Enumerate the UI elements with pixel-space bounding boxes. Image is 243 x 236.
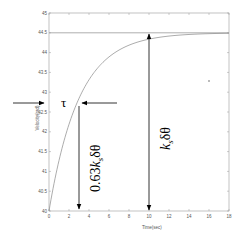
x-axis-label: Time(sec) bbox=[142, 225, 162, 230]
y-axis-label: Velocity(rad) bbox=[35, 105, 40, 131]
x-tick-label: 10 bbox=[146, 214, 152, 219]
y-tick-label: 45 bbox=[42, 11, 48, 16]
plot-frame bbox=[49, 13, 229, 211]
y-tick-label: 43 bbox=[42, 90, 48, 95]
x-axis-ticks: 024681012141618 bbox=[48, 13, 232, 219]
x-tick-label: 4 bbox=[88, 214, 91, 219]
x-tick-label: 6 bbox=[108, 214, 111, 219]
x-tick-label: 8 bbox=[128, 214, 131, 219]
y-tick-label: 40.5 bbox=[38, 189, 47, 194]
x-tick-label: 0 bbox=[48, 214, 51, 219]
x-tick-label: 12 bbox=[166, 214, 172, 219]
x-tick-label: 2 bbox=[68, 214, 71, 219]
stray-mark bbox=[208, 80, 209, 81]
y-tick-label: 44.5 bbox=[38, 30, 47, 35]
tau-label: τ bbox=[61, 95, 66, 110]
y-tick-label: 43.5 bbox=[38, 70, 47, 75]
y-axis-ticks: 4040.54141.54242.54343.54444.545 bbox=[38, 11, 229, 214]
y-tick-label: 42 bbox=[42, 129, 48, 134]
ks-label: ksδθ bbox=[158, 127, 175, 150]
y-tick-label: 44 bbox=[42, 50, 48, 55]
x-tick-label: 16 bbox=[206, 214, 212, 219]
y-tick-label: 40 bbox=[42, 209, 48, 214]
x-tick-label: 18 bbox=[226, 214, 232, 219]
step-response-chart: 4040.54141.54242.54343.54444.545 0246810… bbox=[0, 0, 243, 236]
x-tick-label: 14 bbox=[186, 214, 192, 219]
response-curve bbox=[49, 33, 229, 211]
y-tick-label: 41 bbox=[42, 169, 48, 174]
fraction-label: 0.63ksδθ bbox=[88, 144, 105, 192]
y-tick-label: 41.5 bbox=[38, 149, 47, 154]
